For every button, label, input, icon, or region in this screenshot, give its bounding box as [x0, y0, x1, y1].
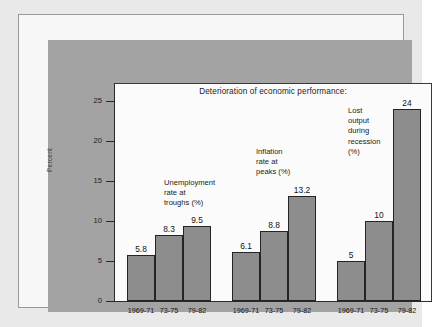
bar-value-group3-73-75: 10: [365, 210, 393, 220]
bar-value-group3-1969-71: 5: [337, 250, 365, 260]
y-tick-label-10: 10: [94, 216, 102, 225]
bar-value-group1-79-82: 9.5: [183, 215, 211, 225]
bar-value-group1-1969-71: 5.8: [127, 244, 155, 254]
bar-group3-1969-71: [337, 261, 365, 301]
figure-gray-panel: Deterioration of economic performance: P…: [48, 40, 412, 312]
bar-group2-79-82: [288, 196, 316, 301]
bar-group3-79-82: [393, 109, 421, 301]
y-tick-mark-0: [106, 301, 114, 302]
y-tick-label-5: 5: [98, 256, 102, 265]
bar-category-group3-73-75: 73-75: [364, 306, 394, 315]
bar-group2-73-75: [260, 231, 288, 301]
bar-category-group2-79-82: 79-82: [287, 306, 317, 315]
y-tick-mark-10: [106, 221, 114, 222]
bar-value-group2-73-75: 8.8: [260, 220, 288, 230]
bar-group2-1969-71: [232, 252, 260, 301]
bar-value-group2-1969-71: 6.1: [232, 241, 260, 251]
bar-value-group2-79-82: 13.2: [286, 185, 318, 195]
bar-category-group1-79-82: 79-82: [182, 306, 212, 315]
y-tick-mark-20: [106, 141, 114, 142]
y-axis-line: [114, 83, 115, 302]
y-tick-label-15: 15: [94, 176, 102, 185]
bar-category-group3-79-82: 79-82: [392, 306, 422, 315]
y-tick-mark-15: [106, 181, 114, 182]
bar-group1-73-75: [155, 235, 183, 301]
group-annotation-unemployment: Unemployment rate at troughs (%): [164, 178, 215, 209]
bar-group1-1969-71: [127, 255, 155, 301]
chart-title: Deterioration of economic performance:: [114, 87, 432, 96]
figure-white-border: Deterioration of economic performance: P…: [18, 14, 404, 308]
bar-group1-79-82: [183, 226, 211, 301]
group-annotation-lost-output: Lost output during recession (%): [348, 106, 381, 157]
bar-group3-73-75: [365, 221, 393, 301]
bar-category-group2-73-75: 73-75: [259, 306, 289, 315]
bar-category-group1-73-75: 73-75: [154, 306, 184, 315]
y-axis-title: Percent: [46, 148, 53, 172]
y-tick-label-25: 25: [94, 96, 102, 105]
y-tick-mark-5: [106, 261, 114, 262]
y-tick-label-20: 20: [94, 136, 102, 145]
y-tick-mark-25: [106, 101, 114, 102]
group-annotation-inflation: Inflation rate at peaks (%): [256, 147, 290, 178]
bar-value-group3-79-82: 24: [393, 98, 421, 108]
bar-value-group1-73-75: 8.3: [155, 224, 183, 234]
y-tick-label-0: 0: [98, 296, 102, 305]
x-axis-line: [114, 301, 432, 302]
